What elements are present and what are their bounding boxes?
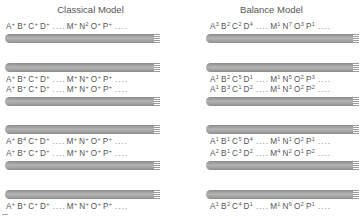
allele-superscript: +: [12, 74, 15, 80]
allele-superscript: 1: [216, 136, 219, 142]
chromosome-bar: [5, 190, 157, 199]
allele-label: O+: [91, 22, 103, 31]
allele-label: D1: [244, 75, 255, 84]
locus-letter: P: [306, 22, 312, 31]
locus-letter: O: [91, 85, 97, 94]
allele-label: A+: [6, 137, 17, 146]
allele-superscript: +: [35, 84, 38, 90]
allele-superscript: 1: [277, 136, 280, 142]
locus-letter: C: [28, 75, 34, 84]
allele-label: A1: [210, 202, 221, 211]
allele-superscript: +: [46, 201, 49, 207]
allele-superscript: +: [109, 21, 112, 27]
locus-letter: D: [244, 149, 250, 158]
allele-label: D2: [244, 149, 255, 158]
balance-model-column: A3B2C2D4....M1N7O3P1....A1B2C5D1....M1N5…: [181, 0, 362, 219]
ellipsis: ....: [318, 75, 331, 84]
allele-label: P+: [103, 22, 114, 31]
allele-label: C3: [232, 149, 243, 158]
allele-superscript: +: [46, 136, 49, 142]
allele-label: D+: [40, 75, 52, 84]
ellipsis: ....: [318, 137, 331, 146]
allele-superscript: +: [35, 74, 38, 80]
allele-label: B2: [221, 75, 232, 84]
allele-superscript: +: [74, 21, 77, 27]
locus-letter: P: [306, 202, 312, 211]
allele-superscript: 2: [227, 201, 230, 207]
allele-superscript: 1: [312, 21, 315, 27]
allele-sequence: A+B+C+D+....M+N+O+P+....: [6, 148, 129, 158]
allele-label: D+: [40, 22, 52, 31]
allele-label: O+: [91, 85, 103, 94]
allele-superscript: +: [46, 84, 49, 90]
locus-letter: A: [6, 75, 12, 84]
allele-superscript: 3: [289, 84, 292, 90]
allele-label: P3: [306, 75, 317, 84]
locus-letter: N: [283, 75, 289, 84]
allele-label: D+: [40, 149, 52, 158]
allele-label: P1: [306, 137, 317, 146]
allele-superscript: +: [74, 136, 77, 142]
allele-superscript: +: [86, 201, 89, 207]
locus-letter: O: [294, 75, 300, 84]
chromosome-bar: [5, 161, 157, 170]
ellipsis: ....: [53, 85, 66, 94]
locus-letter: D: [244, 75, 250, 84]
locus-letter: N: [79, 149, 85, 158]
locus-letter: P: [306, 75, 312, 84]
chromosome-bar: [5, 97, 157, 106]
allele-superscript: 2: [238, 21, 241, 27]
locus-letter: B: [17, 85, 23, 94]
locus-letter: P: [103, 149, 109, 158]
allele-label: B1: [221, 137, 232, 146]
allele-label: B+: [17, 149, 28, 158]
locus-letter: A: [210, 149, 216, 158]
allele-superscript: +: [109, 74, 112, 80]
chromosome-bar: [206, 97, 356, 106]
allele-label: N6: [283, 202, 294, 211]
locus-letter: A: [6, 22, 12, 31]
classical-model-column: A+B+C+D+....M+N2O+P+....A+B+C+D+....M+N+…: [0, 0, 181, 219]
allele-label: B+: [17, 75, 28, 84]
chromosome-bar: [206, 63, 356, 72]
allele-label: M+: [67, 22, 80, 31]
locus-letter: B: [17, 137, 23, 146]
chromosome-bar: [5, 125, 157, 134]
allele-sequence: A1B2C5D1....M1N5O2P3....: [210, 74, 332, 84]
allele-label: N+: [79, 85, 91, 94]
allele-superscript: 2: [227, 21, 230, 27]
allele-superscript: 1: [227, 136, 230, 142]
allele-superscript: 4: [238, 201, 241, 207]
locus-letter: C: [28, 85, 34, 94]
locus-letter: N: [283, 85, 289, 94]
allele-label: B+: [17, 202, 28, 211]
allele-superscript: +: [98, 201, 101, 207]
locus-letter: O: [294, 85, 300, 94]
ellipsis: ....: [318, 22, 331, 31]
locus-letter: N: [79, 85, 85, 94]
allele-label: N+: [79, 137, 91, 146]
allele-label: N2: [79, 22, 90, 31]
chromosome-bar: [206, 34, 356, 43]
allele-superscript: +: [23, 21, 26, 27]
allele-superscript: 3: [227, 84, 230, 90]
allele-superscript: +: [86, 148, 89, 154]
allele-label: O2: [294, 202, 306, 211]
locus-letter: B: [221, 75, 227, 84]
allele-superscript: +: [35, 21, 38, 27]
allele-superscript: 2: [216, 148, 219, 154]
locus-letter: D: [40, 137, 46, 146]
allele-label: A1: [210, 75, 221, 84]
allele-label: D4: [244, 22, 255, 31]
allele-superscript: +: [98, 74, 101, 80]
locus-letter: B: [221, 22, 227, 31]
allele-label: O2: [294, 75, 306, 84]
allele-label: D2: [244, 85, 255, 94]
locus-letter: A: [6, 202, 12, 211]
allele-superscript: 5: [238, 74, 241, 80]
allele-superscript: +: [86, 84, 89, 90]
allele-label: O+: [91, 75, 103, 84]
allele-label: M+: [67, 149, 80, 158]
allele-superscript: +: [98, 148, 101, 154]
locus-letter: A: [210, 202, 216, 211]
